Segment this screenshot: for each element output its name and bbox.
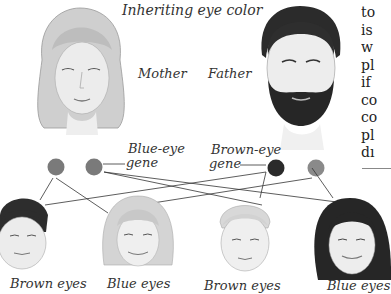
child-3-caption: Brown eyes xyxy=(204,278,281,293)
child-2-caption: Blue eyes xyxy=(107,276,170,291)
body-text-column: to is w pl if co co pl dı xyxy=(361,4,391,162)
child-3-portrait xyxy=(220,206,270,272)
father-label: Father xyxy=(208,66,251,81)
child-2-portrait xyxy=(103,196,174,266)
child-4-caption: Blue eyes xyxy=(327,278,390,293)
figure-title: Inheriting eye color xyxy=(122,2,262,18)
child-1-portrait xyxy=(0,198,48,269)
illustration xyxy=(0,0,391,294)
mother-gene-2 xyxy=(86,159,103,176)
blue-eye-gene-label: Blue-eye gene xyxy=(128,142,185,170)
father-portrait xyxy=(261,6,340,150)
mother-gene-1 xyxy=(48,159,65,176)
divider-rule xyxy=(362,168,391,169)
mother-label: Mother xyxy=(138,66,187,81)
child-4-portrait xyxy=(314,198,391,280)
child-1-caption: Brown eyes xyxy=(10,276,87,291)
mother-portrait xyxy=(38,8,125,135)
brown-eye-gene-label: Brown-eye gene xyxy=(211,143,281,171)
